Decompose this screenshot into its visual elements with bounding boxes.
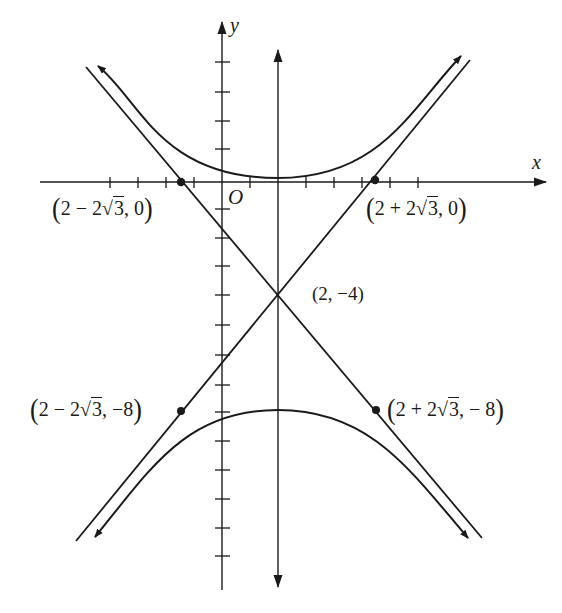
upper-branch xyxy=(98,66,278,178)
asymptote-ascending xyxy=(76,60,470,541)
point-label-p1: (2 − 2√3, 0) xyxy=(52,196,153,222)
point-label-p2: (2 + 2√3, 0) xyxy=(366,196,467,222)
point-p4 xyxy=(372,406,380,414)
point-label-p4: (2 + 2√3, − 8) xyxy=(387,397,504,423)
x-axis-label: x xyxy=(532,152,541,172)
x-axis xyxy=(40,177,546,188)
point-p2 xyxy=(371,176,379,184)
lower-branch-right xyxy=(278,410,468,538)
hyperbola xyxy=(95,56,468,538)
center-label: (2, −4) xyxy=(312,284,364,303)
point-p3 xyxy=(177,407,185,415)
asymptote-descending xyxy=(86,67,482,538)
graph-svg xyxy=(0,0,562,613)
origin-label: O xyxy=(228,187,243,208)
point-label-p3: (2 − 2√3, −8) xyxy=(30,397,142,423)
point-p1 xyxy=(177,178,185,186)
lower-branch-left xyxy=(95,410,278,537)
hyperbola-diagram: y x O (2, −4) (2 − 2√3, 0) (2 + 2√3, 0) … xyxy=(0,0,562,613)
asymptotes xyxy=(76,60,482,541)
y-axis-label: y xyxy=(230,15,239,35)
upper-branch-right xyxy=(278,56,461,178)
y-axis xyxy=(215,22,230,590)
